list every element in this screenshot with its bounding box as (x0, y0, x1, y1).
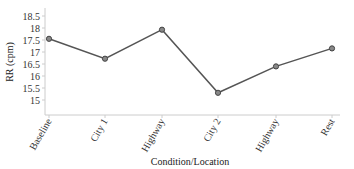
x-tick-label: Baseline (27, 116, 54, 152)
x-axis-title: Condition/Location (151, 156, 229, 167)
data-point-marker (215, 90, 220, 95)
y-tick-label: 15.5 (23, 83, 41, 94)
data-point-marker (46, 36, 51, 41)
x-axis-ticks: BaselineCity 1HighwayCity 2HighwayRest (27, 115, 337, 154)
series-line (49, 30, 332, 93)
y-tick-label: 18.5 (23, 11, 41, 22)
x-tick-label: City 2 (201, 117, 223, 144)
data-point-marker (273, 64, 278, 69)
y-axis-ticks: 1515.51616.51717.51818.5 (23, 11, 46, 106)
y-tick-label: 15 (30, 95, 40, 106)
x-tick-label: Highway (139, 117, 167, 154)
x-tick-label: City 1 (88, 117, 110, 144)
data-point-marker (329, 46, 334, 51)
y-axis-title: RR (cpm) (4, 42, 16, 82)
data-point-marker (159, 27, 164, 32)
y-tick-label: 16.5 (23, 59, 41, 70)
data-series (46, 27, 334, 95)
x-tick-label: Highway (253, 117, 281, 154)
y-tick-label: 17 (30, 47, 40, 58)
axes (45, 8, 340, 115)
line-chart: 1515.51616.51717.51818.5 BaselineCity 1H… (0, 0, 354, 169)
y-tick-label: 17.5 (23, 35, 41, 46)
x-tick-label: Rest (318, 116, 337, 137)
y-tick-label: 16 (30, 71, 40, 82)
data-point-marker (102, 56, 107, 61)
y-tick-label: 18 (30, 23, 40, 34)
